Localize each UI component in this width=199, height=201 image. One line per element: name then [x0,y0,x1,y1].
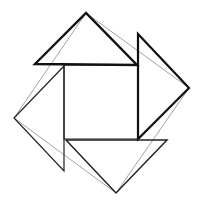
inner-square [64,65,138,139]
outer-tilted-square [14,13,189,193]
triangle-bottom [66,140,167,193]
triangle-right [138,34,189,139]
pinwheel-diagram [0,0,199,201]
